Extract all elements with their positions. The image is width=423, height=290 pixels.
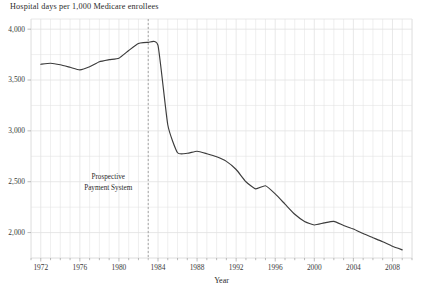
data-series-line (41, 41, 402, 249)
y-axis-tick-label: 3,000 (0, 126, 25, 135)
x-axis-title: Year (192, 276, 252, 285)
x-axis-tick-label: 1972 (21, 263, 61, 272)
x-axis-tick-label: 2004 (333, 263, 373, 272)
x-axis-tick-label: 1980 (99, 263, 139, 272)
grid-minor-horizontal (31, 55, 412, 258)
chart-figure: Hospital days per 1,000 Medicare enrolle… (0, 0, 423, 290)
y-axis-tick-label: 4,000 (0, 25, 25, 34)
axis-tick-marks (28, 29, 413, 261)
y-axis-tick-label: 3,500 (0, 75, 25, 84)
annotation-text-line-2: Payment System (73, 184, 143, 192)
x-axis-tick-label: 1996 (255, 263, 295, 272)
annotation-text-line-1: Prospective (73, 173, 143, 181)
plot-area (0, 0, 423, 290)
y-axis-tick-label: 2,500 (0, 177, 25, 186)
y-axis-tick-label: 2,000 (0, 228, 25, 237)
x-axis-tick-label: 2000 (294, 263, 334, 272)
x-axis-tick-label: 1988 (177, 263, 217, 272)
x-axis-tick-label: 1984 (138, 263, 178, 272)
x-axis-tick-label: 2008 (372, 263, 412, 272)
x-axis-tick-label: 1992 (216, 263, 256, 272)
x-axis-tick-label: 1976 (60, 263, 100, 272)
